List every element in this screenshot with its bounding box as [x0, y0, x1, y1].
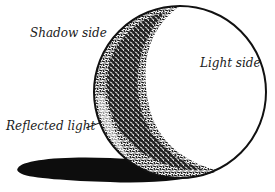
shadow-side-label: Shadow side: [30, 27, 107, 39]
reflected-light-label: Reflected light: [6, 120, 95, 132]
light-side-label: Light side: [200, 57, 261, 69]
